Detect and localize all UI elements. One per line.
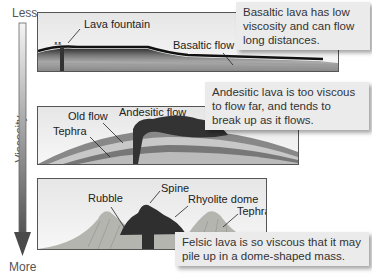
tephra-label-andesitic: Tephra (53, 125, 87, 137)
basaltic-callout: Basaltic lava has low viscosity and can … (236, 2, 370, 50)
viscosity-less-label: Less (12, 6, 37, 20)
viscosity-more-label: More (9, 260, 36, 274)
svg-text:ᴥᴥ: ᴥᴥ (54, 40, 62, 46)
rhyolite-dome-label: Rhyolite dome (188, 193, 258, 205)
old-flow-label: Old flow (68, 110, 108, 122)
tephra-label-felsic: Tephra (237, 205, 267, 217)
andesitic-callout: Andesitic lava is too viscous to flow fa… (205, 82, 369, 130)
felsic-callout: Felsic lava is so viscous that it may pi… (175, 232, 369, 266)
viscosity-arrow-icon (14, 22, 32, 258)
andesitic-flow-label: Andesitic flow (119, 106, 186, 118)
lava-fountain-label: Lava fountain (84, 18, 150, 30)
basaltic-flow-label: Basaltic flow (173, 39, 234, 51)
rubble-label: Rubble (88, 192, 123, 204)
spine-label: Spine (161, 182, 189, 194)
